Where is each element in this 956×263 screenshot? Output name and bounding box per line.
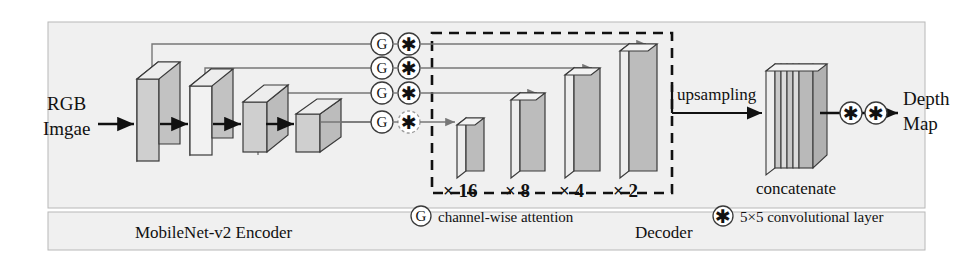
decoder-section-label: Decoder <box>635 223 693 242</box>
legend-conv-text: 5×5 convolutional layer <box>740 209 883 225</box>
legend-attention-text: channel-wise attention <box>438 209 574 225</box>
conv-glyph: ✱ <box>401 33 417 55</box>
attention-glyph: G <box>377 60 388 76</box>
attention-glyph: G <box>377 85 388 101</box>
conv-glyph: ✱ <box>401 111 417 133</box>
encoder-section-label: MobileNet-v2 Encoder <box>135 223 293 242</box>
output-label-line1: Depth <box>903 88 950 109</box>
decoder-block-1 <box>457 118 484 178</box>
conv-glyph: ✱ <box>401 57 417 79</box>
attention-glyph: G <box>377 36 388 52</box>
input-label-line1: RGB <box>47 93 86 114</box>
decoder-block-label-3: × 4 <box>559 180 585 201</box>
attention-glyph: G <box>377 114 388 130</box>
output-label-line2: Map <box>903 113 938 134</box>
decoder-block-3 <box>565 68 600 178</box>
decoder-block-4 <box>620 44 657 178</box>
decoder-block-label-2: × 8 <box>505 180 530 201</box>
conv-glyph: ✱ <box>715 205 731 227</box>
decoder-block-label-4: × 2 <box>613 180 638 201</box>
conv-glyph: ✱ <box>401 82 417 104</box>
concatenate-stack <box>766 64 827 175</box>
figure-canvas: G ✱ G ✱ G ✱ G ✱ <box>0 0 956 263</box>
concatenate-label: concatenate <box>756 179 836 198</box>
upsampling-label: upsampling <box>677 85 757 104</box>
decoder-block-label-1: × 16 <box>443 180 478 201</box>
input-label-line2: Imgae <box>43 118 90 139</box>
attention-glyph: G <box>416 208 427 224</box>
conv-glyph: ✱ <box>868 102 884 124</box>
conv-glyph: ✱ <box>843 102 859 124</box>
decoder-block-2 <box>511 93 545 178</box>
